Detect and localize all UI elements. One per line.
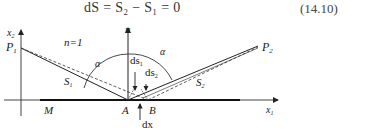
x2-label: x2 [6,27,14,39]
ds1-label: ds1 [130,54,143,67]
p1-label: P1 [5,40,17,55]
alpha-left-label: α [95,58,101,69]
n-label: n [125,23,131,35]
m-label: M [43,104,54,116]
alpha-right-label: α [160,46,166,57]
ds2-label: ds2 [145,66,158,79]
dx-label: dx [142,118,154,130]
p2-label: P2 [261,40,273,55]
x1-label: x1 [265,104,273,116]
ray-s1-dashed [21,48,148,100]
medium-label: n=1 [64,36,82,48]
reflection-diagram: x2 P1 n=1 n α α S1 S2 ds1 ds2 P2 M A B d… [0,0,374,132]
b-label: B [149,104,156,116]
a-label: A [121,104,129,116]
s2-label: S2 [196,76,205,89]
ray-s1 [21,48,128,100]
s1-label: S1 [64,75,73,88]
